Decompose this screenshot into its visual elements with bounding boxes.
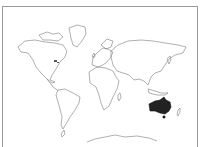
arctic-islands (39, 32, 63, 41)
southern-islands (61, 130, 65, 137)
map-frame (2, 6, 198, 147)
indonesia (148, 89, 168, 95)
new-zealand (177, 108, 180, 116)
great-lakes (54, 60, 59, 63)
tasmania (163, 116, 165, 118)
madagascar (118, 93, 121, 101)
greenland (69, 25, 86, 47)
world-map (3, 7, 199, 147)
asia (111, 40, 186, 85)
europe (92, 48, 113, 67)
north-america (18, 40, 67, 83)
south-america (56, 89, 80, 129)
uk-ireland (92, 53, 95, 58)
australia-highlighted[interactable] (149, 97, 171, 114)
antarctica (87, 135, 157, 142)
japan (167, 56, 171, 64)
scandinavia (101, 39, 113, 49)
africa (89, 67, 119, 110)
